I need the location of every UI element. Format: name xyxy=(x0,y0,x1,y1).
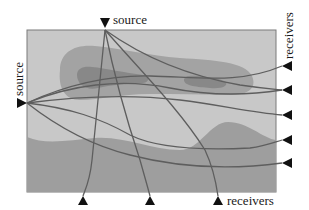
right-receivers-label: receivers xyxy=(281,12,296,59)
receiver-marker-right-3 xyxy=(282,110,292,120)
left-source-label: source xyxy=(11,62,26,96)
top-source-label: source xyxy=(113,12,147,27)
receiver-marker-bottom-1 xyxy=(78,196,88,205)
receiver-marker-right-2 xyxy=(282,85,292,95)
bottom-receivers-label: receivers xyxy=(227,193,274,208)
seismic-ray-diagram: source source receivers receivers xyxy=(0,0,309,210)
source-marker-left xyxy=(17,98,27,108)
receiver-marker-right-4 xyxy=(282,135,292,145)
source-marker-top xyxy=(100,18,110,28)
receiver-marker-bottom-2 xyxy=(145,196,155,205)
receiver-marker-right-5 xyxy=(282,158,292,168)
receivers-right xyxy=(282,61,292,168)
receivers-bottom xyxy=(78,196,223,205)
receiver-marker-right-1 xyxy=(282,61,292,71)
receiver-marker-bottom-3 xyxy=(213,196,223,205)
